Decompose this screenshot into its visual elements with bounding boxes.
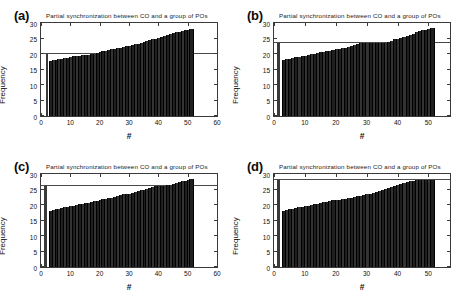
- panel-c: (c)Partial synchronization between CO an…: [0, 151, 233, 302]
- x-tick-mark: [398, 113, 399, 116]
- y-tick-mark: [447, 84, 450, 85]
- y-tick-mark: [41, 53, 44, 54]
- y-tick-label: 25: [30, 187, 37, 194]
- y-tick-mark: [41, 251, 44, 252]
- panel-a: (a)Partial synchronization between CO an…: [0, 0, 233, 151]
- x-tick-mark: [398, 174, 399, 177]
- x-tick-mark: [305, 174, 306, 177]
- y-tick-mark: [41, 235, 44, 236]
- x-tick-labels-b: 01020304050: [273, 118, 451, 130]
- y-tick-label: 30: [263, 172, 270, 179]
- x-tick-label: 50: [184, 119, 191, 126]
- x-tick-label: 10: [301, 270, 308, 277]
- plot-inner-d: [274, 174, 450, 267]
- plot-inner-c: [41, 174, 217, 267]
- y-tick-mark: [214, 69, 217, 70]
- x-tick-mark: [305, 23, 306, 26]
- panel-d: (d)Partial synchronization between CO an…: [233, 151, 466, 302]
- plot-area-d: [273, 173, 451, 268]
- x-tick-mark: [158, 264, 159, 267]
- x-tick-mark: [398, 264, 399, 267]
- x-tick-label: 10: [301, 119, 308, 126]
- y-tick-mark: [274, 220, 277, 221]
- panel-title-d: Partial synchronization between CO and a…: [279, 163, 441, 170]
- x-tick-mark: [70, 23, 71, 26]
- plot-inner-b: [274, 23, 450, 116]
- y-tick-label: 20: [30, 52, 37, 59]
- y-tick-mark: [214, 220, 217, 221]
- y-tick-label: 30: [30, 21, 37, 28]
- reference-bar-d: [277, 180, 279, 267]
- figure-canvas: (a)Partial synchronization between CO an…: [0, 0, 466, 303]
- y-tick-mark: [274, 38, 277, 39]
- y-axis-label-b: Frequency: [231, 66, 240, 104]
- x-tick-mark: [70, 174, 71, 177]
- y-tick-mark: [447, 69, 450, 70]
- x-tick-mark: [274, 113, 275, 116]
- y-tick-label: 30: [263, 21, 270, 28]
- reference-bar-c: [44, 186, 46, 267]
- bar: [189, 179, 193, 267]
- y-tick-mark: [214, 100, 217, 101]
- y-tick-mark: [214, 204, 217, 205]
- y-tick-mark: [447, 22, 450, 23]
- y-tick-mark: [447, 266, 450, 267]
- x-tick-label: 50: [184, 270, 191, 277]
- x-tick-mark: [336, 23, 337, 26]
- x-tick-mark: [336, 113, 337, 116]
- x-tick-mark: [398, 23, 399, 26]
- y-tick-mark: [447, 38, 450, 39]
- x-tick-label: 20: [332, 270, 339, 277]
- bar: [430, 28, 434, 116]
- y-tick-label: 5: [33, 98, 37, 105]
- x-tick-label: 30: [125, 270, 132, 277]
- x-tick-mark: [428, 23, 429, 26]
- panel-title-a: Partial synchronization between CO and a…: [46, 12, 208, 19]
- x-tick-label: 20: [96, 270, 103, 277]
- y-tick-mark: [274, 84, 277, 85]
- plot-inner-a: [41, 23, 217, 116]
- x-tick-label: 0: [272, 270, 276, 277]
- y-tick-mark: [41, 204, 44, 205]
- x-tick-label: 60: [213, 270, 220, 277]
- panel-letter-a: (a): [14, 8, 29, 23]
- x-tick-label: 40: [394, 270, 401, 277]
- y-tick-mark: [447, 251, 450, 252]
- y-tick-mark: [41, 100, 44, 101]
- y-tick-label: 20: [263, 203, 270, 210]
- y-tick-mark: [274, 69, 277, 70]
- x-tick-mark: [305, 264, 306, 267]
- x-tick-label: 0: [272, 119, 276, 126]
- bar: [430, 180, 434, 267]
- x-tick-mark: [100, 174, 101, 177]
- x-tick-labels-c: 0102030405060: [40, 269, 218, 281]
- reference-bar-b: [277, 43, 279, 116]
- plot-area-c: [40, 173, 218, 268]
- y-tick-mark: [447, 204, 450, 205]
- x-tick-mark: [367, 264, 368, 267]
- x-tick-label: 40: [155, 270, 162, 277]
- y-tick-mark: [447, 189, 450, 190]
- x-tick-label: 0: [39, 270, 43, 277]
- x-tick-mark: [158, 23, 159, 26]
- y-tick-label: 0: [266, 114, 270, 121]
- y-tick-mark: [274, 189, 277, 190]
- x-tick-mark: [70, 113, 71, 116]
- x-tick-mark: [188, 113, 189, 116]
- y-axis-label-c: Frequency: [0, 217, 7, 255]
- y-axis-label-d: Frequency: [231, 217, 240, 255]
- x-tick-mark: [367, 23, 368, 26]
- y-tick-label: 25: [263, 187, 270, 194]
- y-tick-mark: [274, 53, 277, 54]
- x-tick-mark: [428, 174, 429, 177]
- y-tick-mark: [447, 100, 450, 101]
- y-tick-label: 15: [30, 67, 37, 74]
- y-tick-mark: [214, 235, 217, 236]
- x-tick-label: 30: [363, 119, 370, 126]
- x-axis-label-b: #: [360, 131, 365, 141]
- x-tick-label: 20: [332, 119, 339, 126]
- x-tick-mark: [100, 113, 101, 116]
- x-tick-mark: [217, 113, 218, 116]
- x-tick-mark: [305, 113, 306, 116]
- y-tick-mark: [41, 38, 44, 39]
